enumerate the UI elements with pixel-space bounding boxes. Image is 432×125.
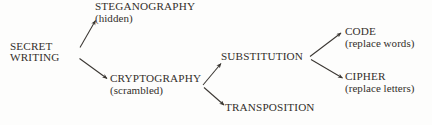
node-steganography-label: STEGANOGRAPHY [95, 1, 195, 12]
node-code-label: CODE [345, 26, 414, 37]
node-cryptography-label: CRYPTOGRAPHY [110, 73, 201, 84]
node-substitution-label: SUBSTITUTION [221, 51, 303, 62]
edge-secret-writing-to-cryptography [80, 59, 108, 79]
node-cryptography: CRYPTOGRAPHY (scrambled) [110, 73, 201, 97]
node-secret-writing: SECRET WRITING [10, 41, 60, 64]
node-steganography-sublabel: (hidden) [95, 13, 195, 24]
node-transposition-label: TRANSPOSITION [225, 102, 315, 113]
secret-writing-diagram: SECRET WRITING STEGANOGRAPHY (hidden) CR… [0, 0, 432, 125]
edge-substitution-to-cipher [311, 60, 343, 79]
edge-substitution-to-code [310, 33, 341, 57]
node-secret-writing-label-line2: WRITING [10, 52, 60, 63]
edge-cryptography-to-transposition [204, 88, 224, 106]
edge-secret-writing-to-steganography [80, 21, 96, 48]
diagram-edges [0, 0, 432, 125]
edge-cryptography-to-substitution [203, 64, 221, 86]
node-substitution: SUBSTITUTION [221, 51, 303, 62]
node-transposition: TRANSPOSITION [225, 102, 315, 113]
node-code-sublabel: (replace words) [345, 38, 414, 49]
node-cryptography-sublabel: (scrambled) [110, 85, 201, 96]
node-cipher-sublabel: (replace letters) [345, 83, 415, 94]
node-steganography: STEGANOGRAPHY (hidden) [95, 1, 195, 25]
node-cipher: CIPHER (replace letters) [345, 71, 415, 95]
node-code: CODE (replace words) [345, 26, 414, 50]
node-cipher-label: CIPHER [345, 71, 415, 82]
